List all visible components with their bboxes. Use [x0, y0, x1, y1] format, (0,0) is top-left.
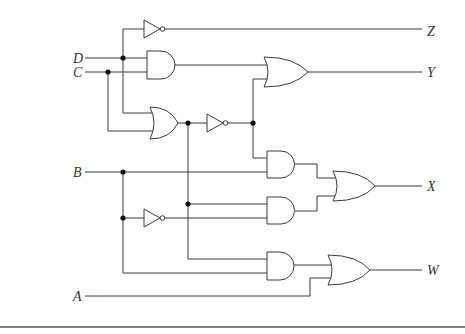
- not-gate-2: [207, 114, 228, 132]
- and-gate-4: [267, 252, 294, 280]
- input-label-d: D: [72, 51, 83, 66]
- or-gate-2: [264, 57, 308, 87]
- junction-dots: [105, 55, 255, 220]
- wires: [85, 29, 422, 296]
- or-gate-4: [328, 255, 370, 285]
- logic-circuit-diagram: D C B A Z Y X W: [0, 0, 465, 334]
- or-gate-1: [150, 107, 178, 139]
- not-gate-3: [144, 209, 165, 227]
- or-gate-3: [333, 171, 375, 201]
- output-label-y: Y: [427, 65, 437, 80]
- and-gate-2: [267, 151, 295, 178]
- not-gate-1: [144, 20, 165, 38]
- output-label-x: X: [426, 179, 436, 194]
- input-label-a: A: [72, 289, 82, 304]
- and-gate-3: [267, 197, 295, 224]
- output-label-w: W: [427, 263, 440, 278]
- input-label-b: B: [73, 165, 82, 180]
- output-label-z: Z: [427, 24, 435, 39]
- input-label-c: C: [73, 65, 83, 80]
- and-gate-1: [147, 51, 175, 79]
